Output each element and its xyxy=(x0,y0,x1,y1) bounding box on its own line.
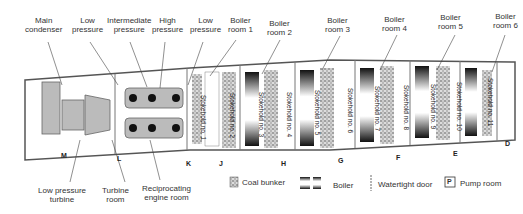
legend-coal-bunker: Coal bunker xyxy=(242,178,285,187)
label-low-pressure-turbine: Low pressure turbine xyxy=(38,186,86,204)
bulkhead-g: G xyxy=(338,157,343,164)
stokehold-11: Stokehold no. 11 xyxy=(487,78,494,126)
label-boiler-room-6: Boiler room 6 xyxy=(493,12,518,30)
pump-room-icon: P xyxy=(447,178,452,185)
bulkhead-k: K xyxy=(186,160,191,167)
label-boiler-room-5: Boiler room 5 xyxy=(438,13,463,31)
stokehold-6: Stokehold no. 6 xyxy=(347,88,354,133)
label-main-condenser: Main condenser xyxy=(25,16,62,34)
stokehold-8: Stokehold no. 8 xyxy=(403,85,410,130)
stokehold-3: Stokehold no. 3 xyxy=(258,92,265,137)
stokehold-9: Stokehold no. 9 xyxy=(430,84,437,129)
stokehold-7: Stokehold no. 7 xyxy=(374,86,381,131)
label-boiler-room-3: Boiler room 3 xyxy=(325,16,350,34)
bulkhead-j: J xyxy=(219,160,223,167)
label-low-pressure-cylinder: Low pressure xyxy=(72,16,103,34)
label-boiler-room-4: Boiler room 4 xyxy=(382,15,407,33)
label-turbine-room: Turbine room xyxy=(102,186,129,204)
stokehold-1: Stokehold no. 1 xyxy=(200,95,207,140)
legend-boiler: Boiler xyxy=(333,181,353,190)
label-boiler-room-1: Boiler room 1 xyxy=(228,16,253,34)
stokehold-4: Stokehold no. 4 xyxy=(286,92,293,137)
stokehold-5: Stokehold no. 5 xyxy=(314,90,321,135)
label-intermediate-pressure: Intermediate pressure xyxy=(107,16,151,34)
stokehold-10: Stokehold no. 10 xyxy=(456,82,463,131)
legend-watertight-door: Watertight door xyxy=(378,180,432,189)
legend-pump-room: Pump room xyxy=(460,179,501,188)
bulkhead-l: L xyxy=(117,155,121,162)
label-reciprocating-engine-room: Reciprocating engine room xyxy=(142,184,191,202)
label-low-pressure-2: Low pressure xyxy=(190,16,221,34)
stokehold-2: Stokehold no. 2 xyxy=(229,93,236,138)
label-high-pressure: High pressure xyxy=(152,16,183,34)
bulkhead-f: F xyxy=(396,154,400,161)
bulkhead-m: M xyxy=(61,152,67,159)
bulkhead-e: E xyxy=(453,150,458,157)
label-boiler-room-2: Boiler room 2 xyxy=(267,19,292,37)
bulkhead-h: H xyxy=(281,160,286,167)
bulkhead-d: D xyxy=(505,140,510,147)
